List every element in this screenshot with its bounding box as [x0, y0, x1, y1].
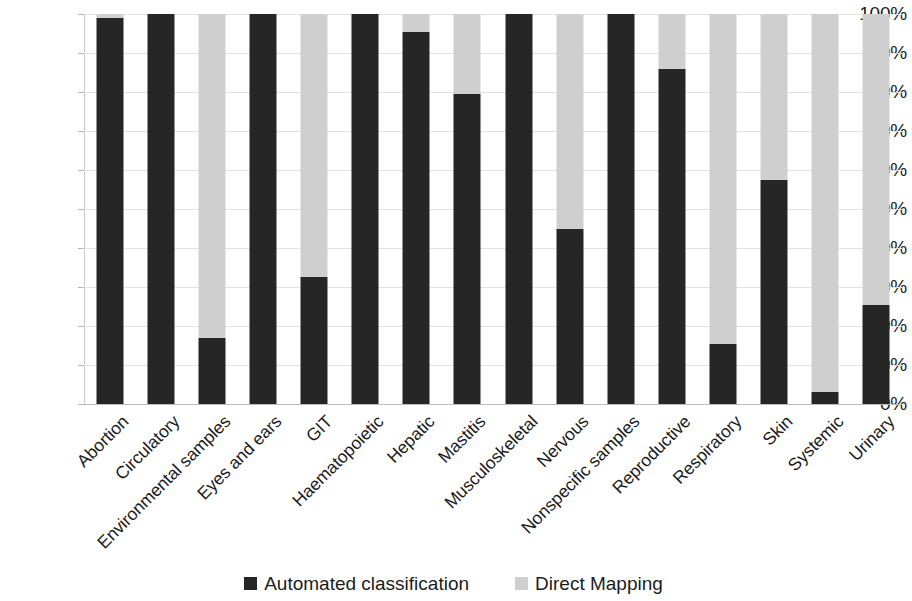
bar-column[interactable] [646, 14, 697, 404]
x-axis-labels: AbortionCirculatoryEnvironmental samples… [84, 404, 902, 554]
bar-segment-direct-mapping[interactable] [301, 14, 328, 277]
bar-column[interactable] [391, 14, 442, 404]
x-axis-category-label-text: GIT [303, 412, 336, 445]
bar-segment-direct-mapping[interactable] [812, 14, 839, 392]
bar-segment-automated-classification[interactable] [454, 94, 481, 404]
legend-item[interactable]: Direct Mapping [515, 574, 663, 593]
bar-segment-direct-mapping[interactable] [863, 14, 890, 305]
bar-segment-direct-mapping[interactable] [556, 14, 583, 229]
bar-segment-automated-classification[interactable] [505, 14, 532, 404]
bar-column[interactable] [851, 14, 902, 404]
x-axis-category-label-text: Musculoskeletal [441, 412, 541, 512]
legend-swatch-icon [244, 577, 257, 590]
x-axis-category-label-text: Haematopoietic [289, 412, 387, 510]
bar-column[interactable] [84, 14, 135, 404]
legend-label: Direct Mapping [535, 574, 663, 593]
bar-segment-direct-mapping[interactable] [198, 14, 225, 338]
bar-column[interactable] [237, 14, 288, 404]
legend-label: Automated classification [264, 574, 469, 593]
bar-series-container [84, 14, 902, 404]
bar-segment-direct-mapping[interactable] [454, 14, 481, 94]
bar-segment-automated-classification[interactable] [658, 69, 685, 404]
bar-segment-direct-mapping[interactable] [658, 14, 685, 69]
bar-column[interactable] [186, 14, 237, 404]
bar-segment-automated-classification[interactable] [147, 14, 174, 404]
x-axis-category-label-text: Urinary [846, 412, 898, 464]
x-axis-category-label-text: Skin [759, 412, 796, 449]
chart-legend: Automated classificationDirect Mapping [0, 574, 907, 593]
bar-segment-direct-mapping[interactable] [761, 14, 788, 180]
bar-column[interactable] [800, 14, 851, 404]
legend-item[interactable]: Automated classification [244, 574, 469, 593]
bar-segment-direct-mapping[interactable] [403, 14, 430, 32]
bar-column[interactable] [493, 14, 544, 404]
bar-segment-automated-classification[interactable] [403, 32, 430, 404]
bar-segment-automated-classification[interactable] [96, 18, 123, 404]
bar-segment-direct-mapping[interactable] [710, 14, 737, 344]
bar-column[interactable] [135, 14, 186, 404]
bar-column[interactable] [544, 14, 595, 404]
legend-swatch-icon [515, 577, 528, 590]
x-axis-category-label-text: Hepatic [384, 412, 438, 466]
bar-segment-automated-classification[interactable] [249, 14, 276, 404]
